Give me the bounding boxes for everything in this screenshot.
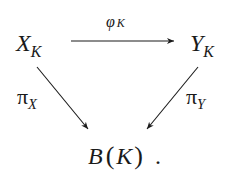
node-b-k: B(K). — [88, 143, 161, 169]
node-b-close-paren: ) — [134, 141, 143, 170]
label-pi-x-sub: X — [28, 96, 37, 112]
node-x-k: XK — [16, 31, 41, 55]
node-b-period: . — [155, 143, 161, 169]
node-x-sub: K — [31, 43, 42, 60]
label-pi-x: πX — [17, 86, 37, 108]
label-pi-y-sub: Y — [197, 96, 205, 112]
node-y-base: Y — [190, 30, 203, 56]
node-b-arg: K — [116, 143, 132, 169]
node-y-k: YK — [190, 31, 214, 55]
arrow-left-pi-x — [37, 67, 88, 129]
label-phi-sub: K — [117, 16, 125, 30]
label-pi-y: πY — [186, 86, 205, 108]
label-pi-y-base: π — [186, 84, 197, 109]
label-phi-base: φ — [106, 13, 115, 30]
label-pi-x-base: π — [17, 84, 28, 109]
node-b-base: B — [88, 143, 103, 169]
node-y-sub: K — [203, 43, 214, 60]
label-phi-k: φK — [106, 14, 125, 30]
node-b-open-paren: ( — [106, 141, 115, 170]
node-x-base: X — [16, 30, 31, 56]
